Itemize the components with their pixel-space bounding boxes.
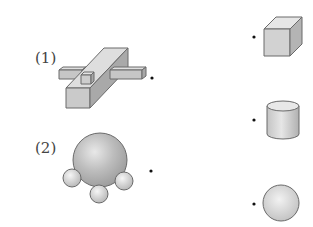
connect-dot-1[interactable] xyxy=(150,76,153,79)
connect-dot-sphere[interactable] xyxy=(252,202,255,205)
small-sphere-bottom xyxy=(90,185,108,203)
connect-dot-cube[interactable] xyxy=(252,35,255,38)
small-cube xyxy=(81,72,94,84)
cube-figure xyxy=(264,17,302,56)
sphere-figure xyxy=(263,185,299,221)
connect-dot-2[interactable] xyxy=(149,169,152,172)
small-sphere-right xyxy=(115,172,133,190)
right-bar xyxy=(110,67,146,79)
small-sphere-left xyxy=(63,169,81,187)
cross-beam-figure xyxy=(59,48,146,108)
sphere-cluster-figure xyxy=(63,133,133,203)
connect-dot-cylinder[interactable] xyxy=(252,118,255,121)
cylinder-figure xyxy=(267,101,299,139)
